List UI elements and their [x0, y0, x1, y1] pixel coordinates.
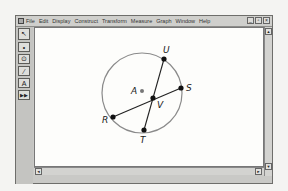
point-v[interactable] — [150, 95, 155, 100]
label-u: U — [163, 45, 170, 55]
chord-ut[interactable] — [144, 59, 164, 130]
label-r: R — [102, 115, 108, 125]
point-s[interactable] — [178, 85, 183, 90]
center-point-a[interactable] — [140, 89, 144, 93]
point-u[interactable] — [161, 56, 166, 61]
label-t: T — [140, 135, 147, 145]
label-v: V — [157, 100, 164, 110]
chord-rs[interactable] — [113, 88, 181, 117]
label-s: S — [186, 83, 192, 93]
geometry-figure: U S R T V A — [0, 0, 288, 191]
point-r[interactable] — [110, 114, 115, 119]
point-t[interactable] — [141, 127, 146, 132]
label-a: A — [130, 86, 137, 96]
